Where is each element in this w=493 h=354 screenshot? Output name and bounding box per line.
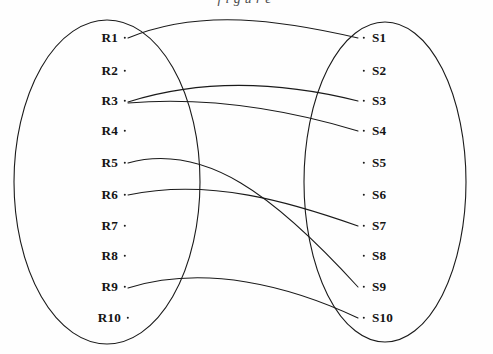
node-label-r10: R10 [98, 310, 121, 326]
node-label-s9: S9 [372, 279, 386, 295]
node-label-s5: S5 [372, 155, 386, 171]
bipartite-mapping-figure: figure R1R2R3R4R5R6R7R8R9R10S1S2S3S4S5S6… [0, 0, 493, 354]
edge-r1-to-s1 [128, 20, 358, 38]
node-label-s8: S8 [372, 248, 386, 264]
node-label-r3: R3 [101, 93, 118, 109]
mapping-edges [128, 20, 358, 318]
diagram-canvas [0, 0, 493, 354]
node-label-s1: S1 [372, 30, 386, 46]
edge-r3-to-s3 [128, 85, 358, 102]
node-label-r6: R6 [101, 187, 118, 203]
node-label-s7: S7 [372, 218, 386, 234]
edge-r5-to-s9 [128, 158, 358, 287]
node-label-s4: S4 [372, 123, 386, 139]
edge-r3-to-s4 [128, 101, 358, 131]
node-label-s10: S10 [372, 310, 393, 326]
node-label-r1: R1 [101, 30, 118, 46]
node-label-s3: S3 [372, 93, 386, 109]
node-label-s6: S6 [372, 187, 386, 203]
node-label-s2: S2 [372, 63, 386, 79]
node-label-r5: R5 [101, 155, 118, 171]
node-label-r4: R4 [101, 123, 118, 139]
node-label-r2: R2 [101, 63, 118, 79]
edge-r6-to-s7 [128, 189, 358, 226]
node-label-r9: R9 [101, 279, 118, 295]
node-label-r7: R7 [101, 218, 118, 234]
node-label-r8: R8 [101, 248, 118, 264]
